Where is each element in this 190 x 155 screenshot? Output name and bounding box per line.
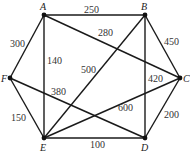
edge-weight-label: 200 bbox=[164, 109, 179, 120]
node-f bbox=[8, 76, 13, 81]
node-label: C bbox=[183, 73, 190, 84]
node-d bbox=[143, 136, 148, 141]
node-label: A bbox=[39, 1, 47, 12]
node-label: F bbox=[0, 73, 8, 84]
node-c bbox=[178, 76, 183, 81]
node-label: E bbox=[39, 142, 46, 153]
edge-weight-label: 420 bbox=[148, 73, 163, 84]
node-b bbox=[143, 13, 148, 18]
edge-c-d bbox=[145, 78, 180, 138]
edge-weight-label: 100 bbox=[90, 139, 105, 150]
edge-weight-label: 600 bbox=[118, 102, 133, 113]
edge-weight-label: 250 bbox=[84, 4, 99, 15]
edge-weight-label: 500 bbox=[81, 64, 96, 75]
edge-weight-label: 280 bbox=[98, 27, 113, 38]
edge-a-c bbox=[44, 15, 180, 78]
edge-e-f bbox=[10, 78, 44, 138]
edge-weight-label: 140 bbox=[47, 55, 62, 66]
edge-weight-label: 380 bbox=[51, 86, 66, 97]
node-label: B bbox=[141, 1, 147, 12]
edge-weight-label: 150 bbox=[11, 112, 26, 123]
node-label: D bbox=[140, 142, 149, 153]
weighted-graph: 250280300140450420500200600100150380 ABC… bbox=[0, 0, 190, 155]
edge-weight-label: 300 bbox=[10, 38, 25, 49]
edge-b-e bbox=[44, 15, 145, 138]
edge-weight-label: 450 bbox=[164, 36, 179, 47]
node-e bbox=[42, 136, 47, 141]
node-a bbox=[42, 13, 47, 18]
